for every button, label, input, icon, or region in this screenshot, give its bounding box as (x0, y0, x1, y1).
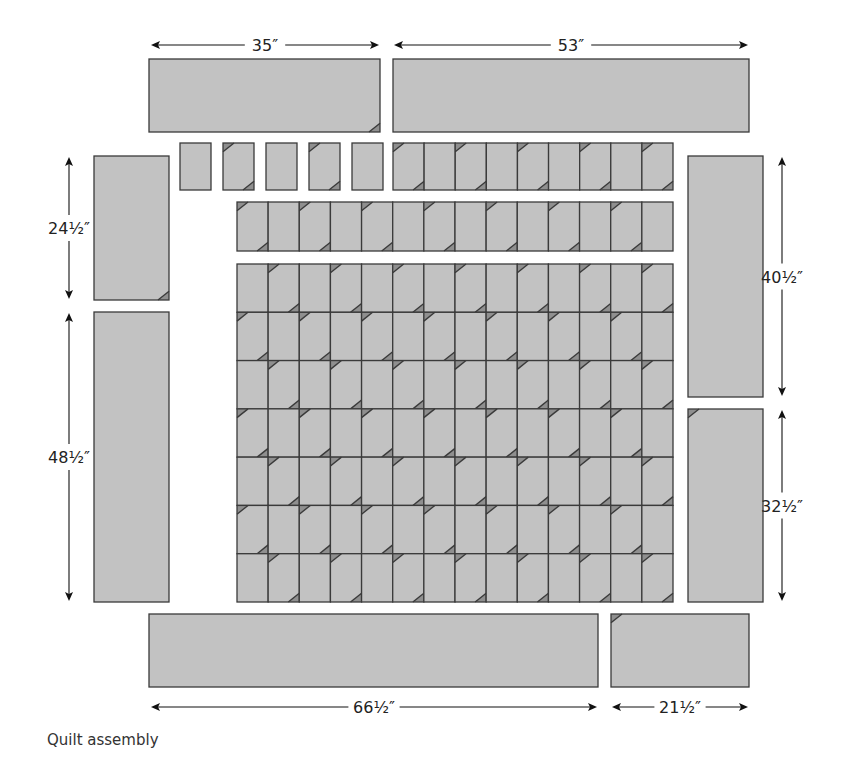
dimension-label: 21½″ (659, 698, 701, 717)
block-main-grid (611, 264, 642, 312)
block-main-grid (237, 409, 268, 457)
block-main-grid (299, 361, 330, 409)
block-row1-joined (455, 143, 486, 190)
block-main-grid (299, 457, 330, 505)
block-main-grid (642, 457, 673, 505)
block-row1-joined (517, 143, 548, 190)
block-row2 (580, 202, 611, 251)
block-main-grid (424, 554, 455, 602)
block-main-grid (362, 409, 393, 457)
block-main-grid (237, 361, 268, 409)
dimension-label: 24½″ (48, 219, 90, 238)
dimension-label: 35″ (252, 36, 278, 55)
block-main-grid (642, 361, 673, 409)
quilt-diagram-canvas: 35″53″24½″48½″40½″32½″66½″21½″ (0, 0, 849, 772)
block-main-grid (268, 312, 299, 360)
block-main-grid (580, 554, 611, 602)
block-main-grid (393, 361, 424, 409)
block-main-grid (424, 361, 455, 409)
block-row1-joined (549, 143, 580, 190)
block-main-grid (299, 554, 330, 602)
block-main-grid (642, 264, 673, 312)
dimension-label: 32½″ (761, 497, 803, 516)
block-main-grid (611, 312, 642, 360)
block-row1-joined (486, 143, 517, 190)
dim-left-top: 24½″ (48, 157, 90, 299)
block-main-grid (424, 505, 455, 553)
block-row1-separate (352, 143, 383, 190)
top-right-border (393, 59, 749, 132)
block-row2 (642, 202, 673, 251)
block-main-grid (268, 409, 299, 457)
dimension-label: 53″ (558, 36, 584, 55)
block-main-grid (611, 554, 642, 602)
block-main-grid (486, 409, 517, 457)
dimension-label: 48½″ (48, 448, 90, 467)
block-main-grid (393, 264, 424, 312)
dim-top-left: 35″ (151, 36, 379, 55)
block-main-grid (455, 264, 486, 312)
block-main-grid (548, 409, 579, 457)
block-main-grid (548, 264, 579, 312)
block-row2 (486, 202, 517, 251)
block-main-grid (237, 312, 268, 360)
block-row2 (611, 202, 642, 251)
block-main-grid (268, 505, 299, 553)
block-row1-joined (611, 143, 642, 190)
block-main-grid (580, 457, 611, 505)
block-row2 (299, 202, 330, 251)
block-main-grid (424, 409, 455, 457)
block-row1-joined (642, 143, 673, 190)
block-main-grid (330, 312, 361, 360)
dim-right-top: 40½″ (761, 157, 803, 396)
block-main-grid (299, 264, 330, 312)
block-main-grid (424, 312, 455, 360)
block-main-grid (299, 505, 330, 553)
block-main-grid (393, 554, 424, 602)
dimension-label: 66½″ (353, 698, 395, 717)
block-row1-separate (223, 143, 254, 190)
block-main-grid (237, 554, 268, 602)
block-main-grid (362, 312, 393, 360)
block-main-grid (330, 361, 361, 409)
block-main-grid (455, 361, 486, 409)
block-main-grid (580, 312, 611, 360)
figure-caption: Quilt assembly (47, 731, 159, 749)
block-main-grid (548, 554, 579, 602)
block-main-grid (548, 505, 579, 553)
quilt-assembly-diagram: 35″53″24½″48½″40½″32½″66½″21½″ Quilt ass… (0, 0, 849, 772)
block-main-grid (455, 409, 486, 457)
block-row1-joined (424, 143, 455, 190)
block-main-grid (548, 312, 579, 360)
block-main-grid (393, 409, 424, 457)
block-row1-separate (180, 143, 211, 190)
block-main-grid (237, 457, 268, 505)
block-main-grid (486, 457, 517, 505)
block-row2 (330, 202, 361, 251)
block-main-grid (362, 505, 393, 553)
block-main-grid (517, 409, 548, 457)
block-main-grid (580, 505, 611, 553)
block-main-grid (330, 505, 361, 553)
block-main-grid (486, 505, 517, 553)
block-main-grid (580, 409, 611, 457)
block-main-grid (299, 312, 330, 360)
block-main-grid (486, 361, 517, 409)
block-main-grid (517, 361, 548, 409)
dim-left-bottom: 48½″ (48, 313, 90, 601)
block-main-grid (580, 361, 611, 409)
block-main-grid (548, 361, 579, 409)
block-row2 (268, 202, 299, 251)
block-main-grid (486, 312, 517, 360)
block-main-grid (455, 505, 486, 553)
block-row2 (455, 202, 486, 251)
block-main-grid (642, 312, 673, 360)
block-main-grid (455, 554, 486, 602)
block-main-grid (455, 457, 486, 505)
right-bottom-border (688, 409, 763, 602)
block-main-grid (237, 264, 268, 312)
block-row1-joined (393, 143, 424, 190)
dim-bottom-right: 21½″ (612, 698, 748, 717)
block-main-grid (299, 409, 330, 457)
block-row2 (517, 202, 548, 251)
